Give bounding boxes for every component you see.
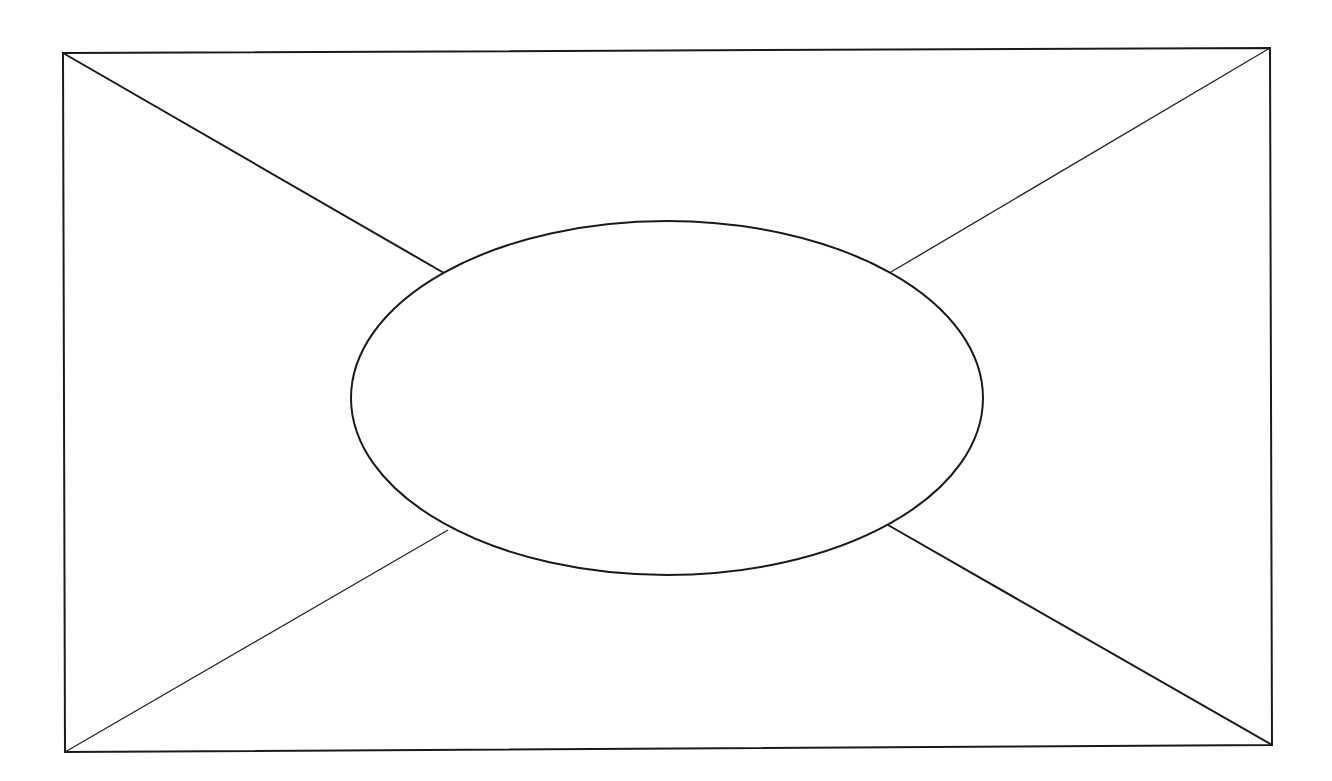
- diagram-canvas: [0, 0, 1332, 781]
